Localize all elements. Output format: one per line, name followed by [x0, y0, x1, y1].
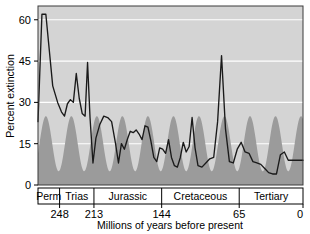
period-label-trias: Trias [65, 190, 88, 202]
x-tick-label-248: 248 [50, 208, 68, 220]
y-tick-label-45: 45 [19, 55, 31, 67]
y-tick-label-60: 60 [19, 14, 31, 26]
period-labels: PermTriasJurassicCretaceousTertiary [36, 188, 289, 204]
period-label-cretaceous: Cretaceous [174, 190, 228, 202]
extinction-chart-figure: 015304560 Percent extinction PermTriasJu… [0, 0, 310, 234]
y-axis-title: Percent extinction [4, 54, 16, 138]
x-axis-title: Millions of years before present [97, 219, 243, 231]
period-label-perm: Perm [36, 190, 61, 202]
y-tick-label-0: 0 [25, 179, 31, 191]
x-axis: 248213144650 [50, 204, 303, 220]
x-tick-label-0: 0 [297, 208, 303, 220]
y-tick-label-30: 30 [19, 96, 31, 108]
period-label-tertiary: Tertiary [254, 190, 289, 202]
chart-svg: 015304560 Percent extinction PermTriasJu… [0, 0, 310, 234]
y-axis: 015304560 [19, 14, 38, 191]
period-label-jurassic: Jurassic [109, 190, 148, 202]
y-tick-label-15: 15 [19, 138, 31, 150]
